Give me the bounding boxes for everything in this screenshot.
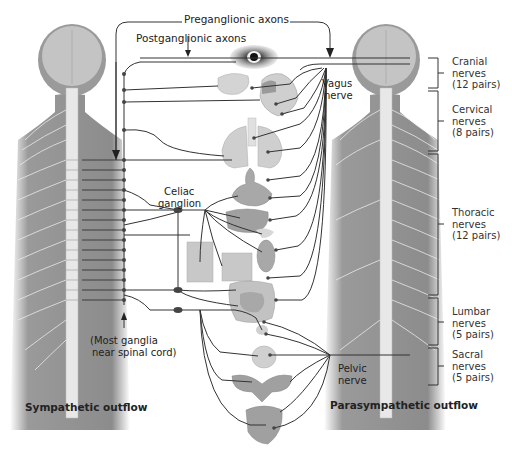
pelvic-nerve-label-2: nerve	[338, 375, 367, 387]
sacral-nerves-label: Sacral nerves (5 pairs)	[452, 349, 494, 384]
vagus-nerve-label-2: nerve	[324, 90, 353, 102]
celiac-ganglion-label-1: Celiac	[164, 186, 194, 198]
adrenal-tissue-2	[222, 253, 252, 281]
cranial-nerves-label: Cranial nerves (12 pairs)	[452, 56, 500, 91]
most-ganglia-label-1: (Most ganglia	[90, 335, 158, 347]
vagus-nerve-label-1: Vagus	[322, 78, 352, 90]
preganglionic-axons-label: Preganglionic axons	[184, 14, 289, 26]
sympathetic-figure	[10, 24, 130, 430]
stomach-organ	[232, 168, 272, 206]
postganglionic-axons-label: Postganglionic axons	[136, 33, 246, 45]
pelvic-nerve-label-1: Pelvic	[338, 363, 367, 375]
bladder-organ	[252, 346, 276, 368]
trachea-organ	[248, 118, 256, 146]
lumbar-nerves-label: Lumbar nerves (5 pairs)	[452, 306, 494, 341]
parasympathetic-outflow-caption: Parasympathetic outflow	[330, 400, 478, 412]
ans-diagram	[0, 0, 512, 452]
celiac-ganglion-label-2: ganglion	[158, 198, 201, 210]
reproductive-organ	[232, 375, 292, 402]
thoracic-nerves-label: Thoracic nerves (12 pairs)	[452, 207, 500, 242]
salivary-gland-organ	[218, 73, 249, 94]
arrow-down-right-icon	[326, 48, 334, 58]
lung-left-organ	[222, 126, 248, 168]
lung-right-organ	[258, 126, 282, 168]
sympathetic-outflow-caption: Sympathetic outflow	[25, 402, 147, 414]
most-ganglia-label-2: near spinal cord)	[92, 347, 176, 359]
organs	[187, 45, 298, 444]
arrow-down-post-icon	[185, 50, 191, 57]
cervical-nerves-label: Cervical nerves (8 pairs)	[452, 104, 494, 139]
heart-organ	[260, 74, 298, 116]
kidney-organ	[257, 240, 275, 272]
